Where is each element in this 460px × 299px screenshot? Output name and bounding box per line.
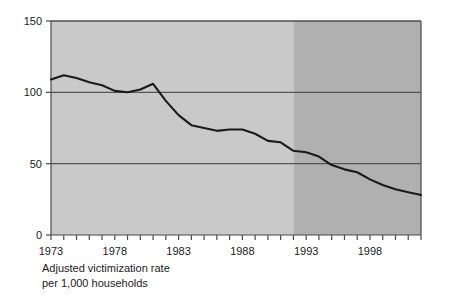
victimization-rate-line-chart: 050100150 197319781983198819931998 Adjus… [0, 0, 460, 299]
plot-band-light-band [51, 21, 293, 235]
chart-container: 050100150 197319781983198819931998 Adjus… [0, 0, 460, 299]
x-tick-label-1983: 1983 [166, 245, 190, 257]
chart-caption-line-1: Adjusted victimization rate [42, 262, 170, 274]
y-tick-label-50: 50 [30, 158, 42, 170]
x-tick-label-1973: 1973 [39, 245, 63, 257]
y-tick-label-100: 100 [24, 86, 42, 98]
y-tick-label-150: 150 [24, 15, 42, 27]
x-tick-label-1993: 1993 [294, 245, 318, 257]
x-tick-label-1998: 1998 [358, 245, 382, 257]
y-tick-label-0: 0 [36, 229, 42, 241]
plot-band-dark-band [293, 21, 421, 235]
plot-shaded-bands [51, 21, 421, 235]
x-tick-label-1988: 1988 [230, 245, 254, 257]
chart-caption-line-2: per 1,000 households [42, 277, 148, 289]
x-tick-label-1978: 1978 [103, 245, 127, 257]
